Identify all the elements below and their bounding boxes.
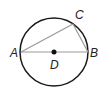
circle-diagram: A B C D <box>0 0 103 96</box>
label-b: B <box>90 46 98 60</box>
label-c: C <box>75 8 84 22</box>
label-d: D <box>50 58 59 72</box>
center-point-d <box>52 50 57 55</box>
label-a: A <box>9 46 18 60</box>
